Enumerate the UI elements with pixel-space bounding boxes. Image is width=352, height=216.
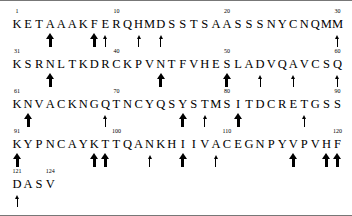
position-number-band: 61708090 [12,87,346,96]
residue-letter: C [57,136,65,152]
arrow-stem-icon [160,39,161,47]
residue-letter: I [181,136,185,152]
residue-letter: A [68,16,77,32]
residue-letter: A [211,136,220,152]
residue-letter: A [289,56,298,72]
sequence-row: 91100110120KYPNCAYKTTQANKHIIVACEGNPYVPVH… [12,127,346,167]
residue-letter: G [245,136,254,152]
arrow-marker-band [12,192,346,207]
cleavage-arrow-icon [335,35,339,47]
residue-letter: K [79,16,88,32]
residue-band: KETAAAKFERQHMDSSTSAASSSNYCNQMM [12,16,346,32]
residue-letter: C [267,96,275,112]
sequence-row: 61708090KNVACKNGQTNCYQSYSTMSITDCRETGSS [12,87,346,127]
cleavage-arrow-icon [24,113,32,127]
cleavage-arrow-icon [46,33,54,47]
position-number: 30 [334,7,340,16]
residue-letter: V [35,96,44,112]
cleavage-arrow-icon [90,153,98,167]
residue-letter: K [123,56,132,72]
position-number: 60 [334,47,340,56]
cleavage-arrow-icon [214,155,218,167]
residue-letter: L [234,56,242,72]
residue-letter: N [123,96,132,112]
residue-letter: S [246,16,253,32]
residue-letter: M [321,16,332,32]
residue-letter: N [46,56,55,72]
residue-letter: D [156,16,165,32]
residue-letter: K [12,56,21,72]
residue-letter: T [300,96,308,112]
residue-letter: N [145,136,154,152]
residue-letter: T [201,96,209,112]
residue-letter: A [211,16,220,32]
position-number: 120 [333,127,342,136]
residue-letter: F [334,136,341,152]
residue-letter: N [256,136,265,152]
sequence-row: 31405060KSRNLTKDRCKPVNTFVHESLADVQAVCSQ [12,47,346,87]
arrow-stem-icon [181,159,184,167]
residue-letter: R [112,16,120,32]
residue-letter: A [57,16,66,32]
residue-letter: V [300,56,309,72]
residue-letter: C [112,56,120,72]
residue-letter: A [24,176,33,192]
residue-letter: S [323,96,330,112]
position-number: 91 [14,127,20,136]
residue-letter: V [200,136,209,152]
residue-letter: T [245,96,253,112]
position-number-band: 121124 [12,167,346,176]
residue-letter: Q [156,96,165,112]
residue-letter: T [190,16,198,32]
residue-letter: N [79,96,88,112]
residue-letter: Q [278,56,287,72]
residue-letter: S [201,16,208,32]
residue-letter: L [57,56,65,72]
residue-letter: P [36,136,43,152]
cleavage-arrow-icon [15,195,19,207]
residue-letter: F [179,56,186,72]
residue-letter: A [68,136,77,152]
cleavage-arrow-icon [103,115,107,127]
residue-letter: V [311,136,320,152]
residue-letter: V [46,176,55,192]
arrow-stem-icon [105,39,106,47]
position-number-band: 31405060 [12,47,346,56]
arrow-stem-icon [225,79,228,87]
arrow-stem-icon [337,79,338,87]
residue-letter: T [168,56,176,72]
position-number: 124 [46,167,55,176]
position-number: 61 [14,87,20,96]
residue-band: DASV [12,176,346,192]
sequence-row: 121124DASV [12,167,346,215]
position-number: 50 [224,47,230,56]
residue-letter: H [134,16,143,32]
residue-letter: D [90,56,99,72]
residue-letter: S [179,16,186,32]
residue-letter: S [36,176,43,192]
residue-letter: Y [24,136,33,152]
position-number-band: 91100110120 [12,127,346,136]
residue-letter: G [90,96,99,112]
arrow-stem-icon [149,159,150,167]
residue-letter: G [311,96,320,112]
residue-letter: T [113,136,121,152]
arrow-stem-icon [325,159,328,167]
residue-letter: Q [333,56,342,72]
cleavage-arrow-icon [322,153,330,167]
position-number: 1 [16,7,19,16]
arrow-stem-icon [260,79,261,87]
residue-letter: T [113,96,121,112]
residue-letter: I [236,96,240,112]
arrow-stem-icon [138,39,139,47]
cleavage-arrow-icon [234,113,242,127]
cleavage-arrow-icon [90,33,98,47]
residue-letter: P [301,136,308,152]
residue-letter: V [189,56,198,72]
residue-letter: T [102,136,110,152]
position-number: 20 [224,7,230,16]
cleavage-arrow-icon [179,153,187,167]
residue-letter: N [267,16,276,32]
residue-letter: D [256,56,265,72]
position-number-band: 1102030 [12,7,346,16]
